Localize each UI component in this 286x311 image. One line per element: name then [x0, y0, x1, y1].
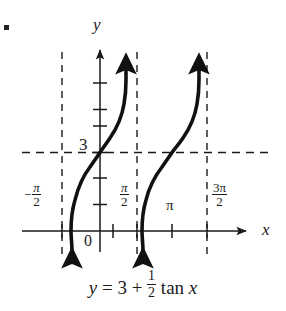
- origin-label: 0: [84, 233, 92, 249]
- equation-variable: x: [189, 277, 197, 298]
- x-tick-label-pi: π: [166, 198, 174, 213]
- fraction-denominator: 2: [32, 195, 41, 208]
- fraction-numerator: π: [32, 181, 41, 195]
- asymptote-group: [62, 52, 207, 258]
- fraction-denominator: 2: [120, 195, 129, 208]
- equation-plus: +: [132, 277, 143, 298]
- y-tick-label-3: 3: [79, 136, 88, 153]
- curve-branch-right: [142, 58, 199, 252]
- fraction-numerator: π: [120, 181, 129, 195]
- equation-constant: 3: [117, 277, 127, 298]
- fraction-half-pi: π 2: [120, 181, 129, 208]
- x-axis-label: x: [262, 221, 270, 238]
- fraction-numerator: 3π: [212, 181, 227, 195]
- fraction-numerator: 1: [147, 268, 156, 285]
- fraction-three-half-pi: 3π 2: [212, 181, 227, 208]
- y-axis-label: y: [93, 16, 101, 33]
- tangent-graph-figure: y x 0 3 − π 2 π 2 π 3π 2 y = 3 + 1 2: [0, 0, 286, 311]
- equation-equals: =: [102, 277, 113, 298]
- graph-canvas: [0, 0, 286, 311]
- minus-sign: −: [24, 188, 31, 201]
- x-tick-label-neg-half-pi: − π 2: [24, 181, 41, 208]
- curve-branch-left: [71, 58, 126, 252]
- equation-coefficient-fraction: 1 2: [147, 268, 156, 301]
- equation-function-name: tan: [161, 277, 184, 298]
- x-tick-label-three-half-pi: 3π 2: [212, 181, 227, 208]
- equation-caption: y = 3 + 1 2 tan x: [0, 268, 286, 301]
- equation-lhs: y: [89, 277, 97, 298]
- fraction-denominator: 2: [147, 285, 156, 301]
- x-tick-label-half-pi: π 2: [120, 181, 129, 208]
- fraction-neg-half-pi: π 2: [32, 181, 41, 208]
- fraction-denominator: 2: [212, 195, 227, 208]
